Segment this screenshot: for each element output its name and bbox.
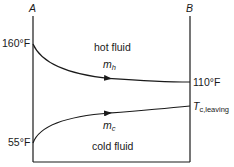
cold-flow-symbol: m: [103, 119, 112, 131]
hot-outlet-temp: 110°F: [193, 77, 220, 88]
point-b-label: B: [186, 3, 193, 14]
hot-flow-symbol: m: [103, 58, 112, 70]
cold-flow-label: mc: [103, 120, 116, 133]
hot-flow-subscript: h: [112, 63, 116, 72]
cold-outlet-subscript: c,leaving: [199, 105, 229, 114]
hot-inlet-temp: 160°F: [2, 38, 30, 49]
cold-outlet-label: Tc,leaving: [193, 101, 229, 114]
point-a-label: A: [29, 3, 36, 14]
hot-fluid-label: hot fluid: [94, 42, 131, 53]
cold-fluid-curve-tail: [108, 106, 190, 113]
cold-fluid-curve: [33, 113, 110, 143]
cold-flow-subscript: c: [112, 124, 116, 133]
hot-flow-label: mh: [103, 59, 116, 72]
hot-fluid-curve-tail: [108, 78, 190, 82]
cold-inlet-temp: 55°F: [8, 137, 30, 148]
cold-fluid-label: cold fluid: [92, 141, 133, 152]
